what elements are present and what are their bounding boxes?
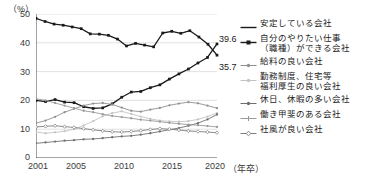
y-tick-20: 20 bbox=[8, 96, 30, 105]
series-line bbox=[36, 17, 218, 57]
annotation-value-bottom: 35.7 bbox=[219, 62, 237, 72]
legend-item: 安定している会社 bbox=[240, 18, 373, 30]
annotation-value-top: 39.6 bbox=[219, 34, 237, 44]
x-tick-2005: 2005 bbox=[61, 162, 91, 171]
legend-item: 休日、休暇の多い会社 bbox=[240, 94, 373, 106]
legend-item: 給料の良い会社 bbox=[240, 56, 373, 68]
legend-item: 社風が良い会社 bbox=[240, 124, 373, 136]
legend-label: 休日、休暇の多い会社 bbox=[260, 94, 350, 104]
legend-marker-icon bbox=[240, 34, 257, 45]
legend-marker-icon bbox=[240, 125, 257, 136]
chart-legend: 安定している会社自分のやりたい仕事 （職種）ができる会社給料の良い会社勤務制度、… bbox=[240, 18, 373, 139]
legend-label: 自分のやりたい仕事 （職種）ができる会社 bbox=[260, 33, 350, 53]
x-tick-2020: 2020 bbox=[200, 162, 230, 171]
chart-root: （%） 50 40 30 20 10 0 2001 2005 2010 2015… bbox=[0, 0, 373, 185]
x-tick-2001: 2001 bbox=[23, 162, 53, 171]
y-tick-0: 0 bbox=[8, 153, 30, 162]
legend-item: 働き甲斐のある会社 bbox=[240, 109, 373, 121]
y-tick-30: 30 bbox=[8, 68, 30, 77]
y-tick-50: 50 bbox=[8, 10, 30, 19]
y-tick-40: 40 bbox=[8, 39, 30, 48]
legend-item: 勤務制度、住宅等 福利厚生の良い会社 bbox=[240, 71, 373, 91]
legend-marker-icon bbox=[240, 19, 257, 30]
legend-label: 勤務制度、住宅等 福利厚生の良い会社 bbox=[260, 71, 341, 91]
legend-marker-icon bbox=[240, 57, 257, 68]
legend-marker-icon bbox=[240, 72, 257, 83]
y-tick-10: 10 bbox=[8, 125, 30, 134]
chart-svg bbox=[36, 14, 219, 158]
legend-label: 安定している会社 bbox=[260, 18, 332, 28]
legend-marker-icon bbox=[240, 95, 257, 106]
legend-item: 自分のやりたい仕事 （職種）ができる会社 bbox=[240, 33, 373, 53]
legend-label: 働き甲斐のある会社 bbox=[260, 109, 341, 119]
legend-label: 社風が良い会社 bbox=[260, 124, 323, 134]
legend-marker-icon bbox=[240, 110, 257, 121]
x-axis-unit-label: （年卒） bbox=[228, 162, 264, 175]
x-tick-2010: 2010 bbox=[109, 162, 139, 171]
legend-label: 給料の良い会社 bbox=[260, 56, 323, 66]
series-line bbox=[36, 43, 218, 110]
x-tick-2015: 2015 bbox=[157, 162, 187, 171]
plot-area bbox=[36, 14, 219, 158]
